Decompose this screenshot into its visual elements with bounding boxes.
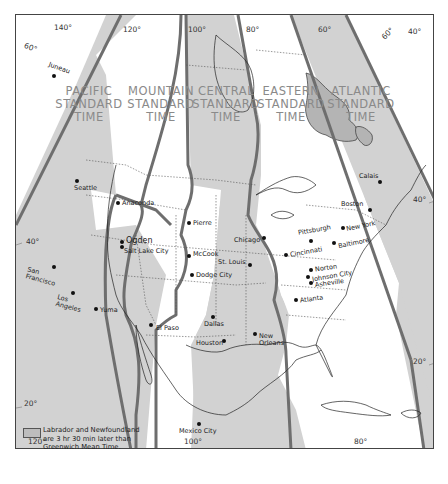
latitude-label-40-left: 40° — [26, 237, 39, 246]
city-dot-los-angeles — [71, 291, 75, 295]
legend-text: Labrador and Newfoundland are 3 hr 30 mi… — [43, 426, 140, 452]
city-dot-dallas — [211, 315, 215, 319]
latitude-label-20-right: 20° — [413, 357, 426, 366]
city-dot-anaconda — [116, 201, 120, 205]
city-label-boston: Boston — [341, 201, 363, 208]
atlantic-zone-label: ATLANTIC STANDARD TIME — [321, 85, 401, 124]
time-zone-map: PACIFIC STANDARD TIME MOUNTAIN STANDARD … — [15, 14, 434, 449]
city-dot-new-york — [341, 226, 345, 230]
city-dot-yuma — [94, 307, 98, 311]
city-dot-boston — [368, 208, 372, 212]
city-label-seattle: Seattle — [74, 185, 97, 192]
eastern-zone-label: EASTERN STANDARD TIME — [251, 85, 331, 124]
city-label-salt-lake-city: Salt Lake City — [124, 248, 168, 255]
latitude-label-60-top: 60° — [318, 25, 331, 34]
city-label-dodge-city: Dodge City — [196, 272, 232, 279]
city-label-st-louis: St. Louis — [218, 259, 246, 266]
city-dot-el-paso — [149, 323, 153, 327]
city-label-mexico-city: Mexico City — [179, 428, 217, 435]
latitude-label-20-left: 20° — [24, 399, 37, 408]
city-label-ogden: Ogden — [126, 237, 152, 244]
city-dot-asheville — [309, 281, 313, 285]
city-dot-san-francisco — [52, 265, 56, 269]
city-label-yuma: Yuma — [100, 307, 118, 314]
longitude-label-80-top: 80° — [246, 25, 259, 34]
longitude-label-120-top: 120° — [123, 25, 141, 34]
city-dot-norton — [309, 268, 313, 272]
latitude-label-40-right: 40° — [413, 195, 426, 204]
longitude-label-40-top: 40° — [408, 27, 421, 36]
city-label-dallas: Dallas — [204, 321, 224, 328]
city-label-mccook: McCook — [193, 251, 218, 258]
city-dot-juneau — [52, 74, 56, 78]
city-label-el-paso: El Paso — [156, 325, 179, 332]
longitude-label-140-top: 140° — [54, 23, 72, 32]
map-graphics — [16, 15, 434, 449]
city-label-pierre: Pierre — [193, 220, 212, 227]
longitude-label-80-bottom: 80° — [354, 437, 367, 446]
city-dot-cincinnati — [284, 253, 288, 257]
city-dot-dodge-city — [190, 273, 194, 277]
city-label-houston: Houston — [196, 340, 223, 347]
city-dot-new-orleans — [253, 332, 257, 336]
city-label-anaconda: Anaconda — [122, 200, 154, 207]
city-dot-seattle — [75, 179, 79, 183]
city-dot-st-louis — [248, 263, 252, 267]
city-dot-pierre — [187, 221, 191, 225]
longitude-label-100-top: 100° — [188, 25, 206, 34]
city-dot-atlanta — [294, 298, 298, 302]
city-label-calais: Calais — [359, 173, 379, 180]
city-dot-pittsburgh — [309, 239, 313, 243]
longitude-label-100-bottom: 100° — [184, 437, 202, 446]
city-dot-mexico-city — [197, 422, 201, 426]
city-dot-baltimore — [332, 241, 336, 245]
legend-swatch-labrador-newfoundland — [23, 428, 41, 438]
city-label-new-orleans: New Orleans — [259, 333, 284, 347]
city-label-chicago: Chicago — [234, 237, 260, 244]
city-dot-johnson-city — [306, 275, 310, 279]
city-dot-mccook — [187, 254, 191, 258]
city-dot-chicago — [262, 236, 266, 240]
city-dot-ogden — [120, 240, 124, 244]
city-dot-calais — [378, 180, 382, 184]
